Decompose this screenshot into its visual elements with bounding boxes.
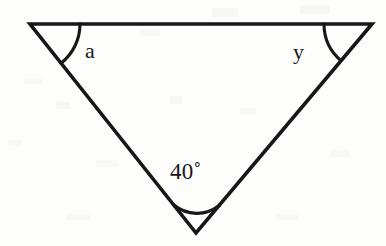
geometry-figure: a y 40˚ xyxy=(0,0,386,246)
triangle-diagram-svg xyxy=(0,0,386,246)
triangle-outline xyxy=(30,24,372,233)
right-angle-label: y xyxy=(293,41,304,63)
scan-noise xyxy=(0,0,386,246)
right-angle-arc xyxy=(324,24,341,61)
left-angle-label: a xyxy=(85,40,95,62)
left-angle-arc xyxy=(61,24,80,63)
bottom-angle-label: 40˚ xyxy=(170,160,201,183)
